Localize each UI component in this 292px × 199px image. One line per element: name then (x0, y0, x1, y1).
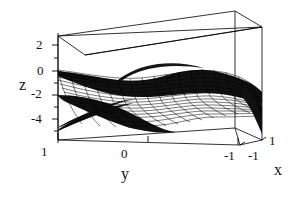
y-tick-label-0: 0 (121, 147, 128, 160)
x-axis-title: x (274, 162, 282, 178)
y-tick-label-1: 1 (41, 145, 48, 158)
surface-mesh (0, 0, 292, 199)
z-tick-label-0: 0 (37, 64, 44, 77)
x-tick-label-1: 1 (269, 134, 276, 147)
y-axis-title: y (121, 166, 129, 182)
surface-plot-figure: z 2 0 -2 -4 1 0 -1 -1 1 y x (0, 0, 292, 199)
z-tick-label-minus2: -2 (31, 87, 42, 100)
x-tick-label-minus1: -1 (248, 149, 259, 162)
y-tick-label-minus1: -1 (224, 149, 235, 162)
z-tick-label-2: 2 (36, 38, 43, 51)
z-tick-label-minus4: -4 (31, 112, 42, 125)
z-axis-title: z (19, 77, 26, 93)
